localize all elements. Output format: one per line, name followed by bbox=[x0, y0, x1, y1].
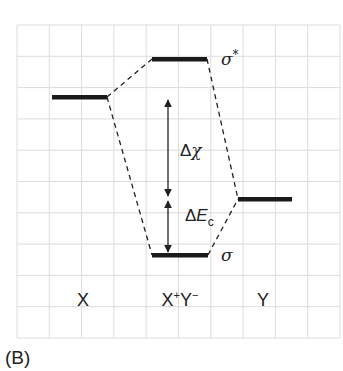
level-sigma bbox=[152, 253, 208, 258]
column-label-y: Y bbox=[257, 290, 269, 310]
mo-diagram: σ* σ Δχ ΔEc X X+Y− Y (B) bbox=[0, 0, 343, 371]
column-label-x: X bbox=[77, 290, 89, 310]
correlation-lines bbox=[107, 59, 238, 255]
sigma-star-label: σ* bbox=[221, 48, 239, 69]
level-y bbox=[238, 197, 292, 202]
delta-chi-label: Δχ bbox=[180, 140, 203, 160]
delta-ec-label: ΔEc bbox=[185, 206, 214, 229]
level-x bbox=[52, 95, 107, 100]
level-sigma-star bbox=[152, 57, 207, 62]
panel-label: (B) bbox=[5, 347, 30, 368]
sigma-label: σ bbox=[221, 245, 233, 265]
